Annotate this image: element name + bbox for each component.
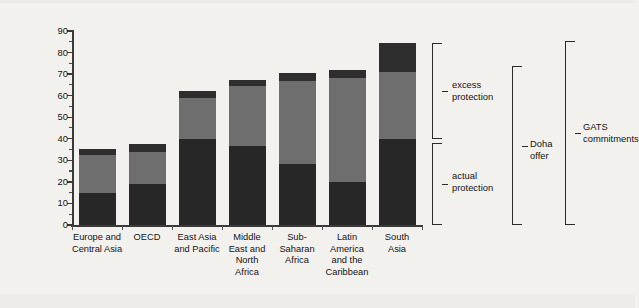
x-category-label-3-line-3: Africa xyxy=(216,267,278,279)
x-category-label-0-line-1: Central Asia xyxy=(66,244,128,256)
annotation-doha-line2: offer xyxy=(530,150,549,161)
bar-segment-doha-cap-4 xyxy=(279,73,316,81)
x-category-label-6-line-0: South xyxy=(366,232,428,244)
y-tick-label-0: 0 xyxy=(38,219,68,230)
annotation-doha-line1: Doha xyxy=(530,138,552,149)
bar-segment-excess-protection-1 xyxy=(129,152,166,184)
bar-segment-actual-protection-3 xyxy=(229,146,266,225)
bar-segment-actual-protection-2 xyxy=(179,139,216,225)
y-tick-label-10: 10 xyxy=(38,197,68,208)
bar-segment-actual-protection-0 xyxy=(79,193,116,225)
bracket-gats-commitments xyxy=(565,41,575,225)
bar-segment-doha-cap-5 xyxy=(329,70,366,79)
x-category-label-5-line-3: Caribbean xyxy=(316,267,378,279)
y-tick-label-70: 70 xyxy=(38,68,68,79)
x-tick-3 xyxy=(222,226,223,230)
bar-5 xyxy=(329,70,366,225)
bar-segment-excess-protection-0 xyxy=(79,155,116,193)
annotation-gats-line2: commitments xyxy=(583,133,639,144)
y-tick-label-40: 40 xyxy=(38,133,68,144)
page-edge-top xyxy=(0,0,635,3)
bar-segment-actual-protection-5 xyxy=(329,182,366,225)
annotation-gats-line1: GATS xyxy=(583,121,608,132)
annotation-excess-line2: protection xyxy=(452,91,493,102)
bar-series-group xyxy=(72,31,422,225)
bar-0 xyxy=(79,149,116,225)
x-tick-7 xyxy=(422,226,423,230)
annotation-actual-protection: actual protection xyxy=(452,170,493,194)
bar-2 xyxy=(179,91,216,225)
x-category-label-5-line-2: and the xyxy=(316,255,378,267)
x-axis-line xyxy=(71,225,423,227)
page-edge-bottom xyxy=(0,294,635,308)
y-tick-label-30: 30 xyxy=(38,154,68,165)
x-tick-1 xyxy=(122,226,123,230)
annotation-excess-line1: excess xyxy=(452,79,481,90)
bar-segment-excess-protection-6 xyxy=(379,72,416,139)
bracket-doha-offer xyxy=(512,66,522,225)
x-category-label-6: SouthAsia xyxy=(366,232,428,255)
y-tick-label-60: 60 xyxy=(38,90,68,101)
annotation-actual-line1: actual xyxy=(452,170,477,181)
bar-segment-actual-protection-4 xyxy=(279,164,316,225)
annotation-actual-line2: protection xyxy=(452,182,493,193)
x-category-label-6-line-1: Asia xyxy=(366,244,428,256)
bracket-actual-protection xyxy=(432,143,442,225)
x-tick-0 xyxy=(72,226,73,230)
bar-segment-excess-protection-3 xyxy=(229,86,266,146)
bar-segment-doha-cap-1 xyxy=(129,144,166,152)
bar-segment-actual-protection-6 xyxy=(379,139,416,225)
bar-segment-actual-protection-1 xyxy=(129,184,166,225)
x-tick-5 xyxy=(322,226,323,230)
bar-3 xyxy=(229,80,266,225)
bar-4 xyxy=(279,73,316,225)
bracket-excess-protection xyxy=(432,43,442,139)
y-tick-label-90: 90 xyxy=(38,25,68,36)
y-tick-label-20: 20 xyxy=(38,176,68,187)
annotation-excess-protection: excess protection xyxy=(452,79,493,103)
bar-segment-excess-protection-4 xyxy=(279,81,316,164)
bar-6 xyxy=(379,43,416,225)
x-tick-2 xyxy=(172,226,173,230)
annotation-doha-offer: Doha offer xyxy=(530,138,552,162)
bar-segment-excess-protection-2 xyxy=(179,98,216,139)
bar-1 xyxy=(129,144,166,225)
x-tick-4 xyxy=(272,226,273,230)
y-tick-label-80: 80 xyxy=(38,47,68,58)
x-tick-6 xyxy=(372,226,373,230)
bar-segment-doha-cap-6 xyxy=(379,43,416,72)
annotation-gats-commitments: GATS commitments xyxy=(583,121,639,145)
bar-segment-excess-protection-5 xyxy=(329,78,366,181)
y-tick-label-50: 50 xyxy=(38,111,68,122)
